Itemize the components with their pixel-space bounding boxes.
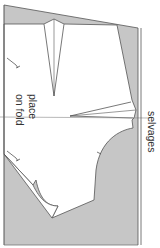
- place-on-fold-label-line2: on fold: [15, 94, 26, 126]
- selvages-label: selvages: [147, 111, 158, 152]
- place-on-fold-label-line1: place: [28, 94, 39, 119]
